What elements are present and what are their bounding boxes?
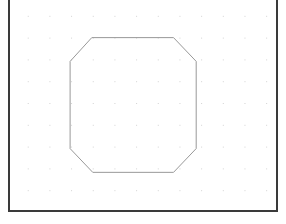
screenshot-root — [0, 0, 286, 224]
shape-layer — [10, 0, 276, 210]
drawing-canvas[interactable] — [8, 0, 278, 212]
octagon-shape[interactable] — [70, 38, 196, 173]
